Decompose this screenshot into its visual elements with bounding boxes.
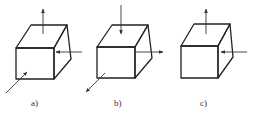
cube-b-top-face <box>97 25 148 47</box>
cube-force-diagram: a) b) c) <box>0 0 259 117</box>
arrow-diagonal-out-icon <box>86 73 105 92</box>
cube-b-right-face <box>135 25 152 78</box>
cube-c-top-face <box>181 24 230 46</box>
panel-a-label: a) <box>31 99 38 108</box>
cube-a-front-face <box>16 48 54 79</box>
cube-c-front-face <box>181 46 218 78</box>
cube-b-front-face <box>97 47 135 78</box>
panel-b-label: b) <box>114 99 122 108</box>
cube-a-top-face <box>16 25 67 48</box>
cube-c-right-face <box>218 24 233 78</box>
panel-c-cube <box>181 24 233 78</box>
panel-c-label: c) <box>200 99 207 108</box>
panel-b-cube <box>97 25 152 78</box>
